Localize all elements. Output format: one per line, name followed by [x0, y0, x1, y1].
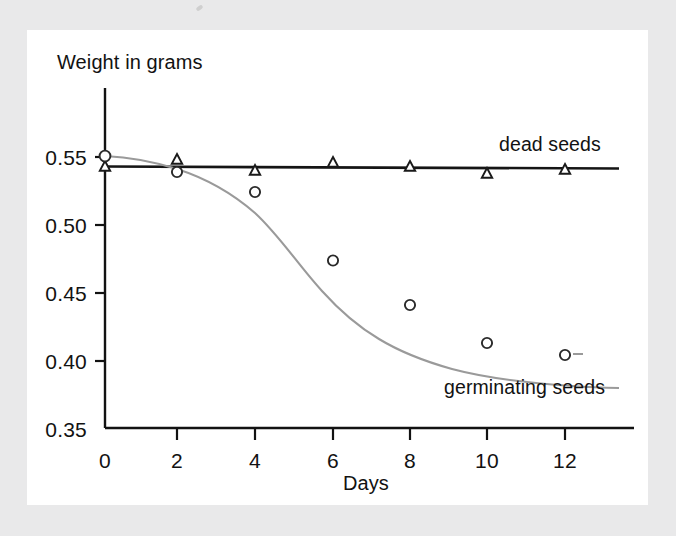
x-axis-title: Days: [343, 473, 389, 493]
germinating-seeds-markers: [100, 151, 571, 361]
scan-speck: [195, 4, 203, 11]
germinating-seeds-curve: [105, 156, 619, 388]
x-tick-label-0: 0: [85, 450, 125, 471]
y-tick-label-0: 0.55: [21, 147, 87, 168]
y-tick-label-4: 0.35: [21, 419, 87, 440]
x-tick-label-4: 8: [390, 450, 430, 471]
germinating-seeds-label: germinating seeds: [444, 378, 605, 398]
dead-seeds-line: [105, 167, 619, 169]
figure-panel: Weight in grams Days dead seeds germinat…: [27, 30, 648, 505]
y-axis-title: Weight in grams: [57, 52, 203, 72]
dead-seeds-label: dead seeds: [499, 135, 601, 155]
x-tick-label-2: 4: [235, 450, 275, 471]
y-tick-label-2: 0.45: [21, 283, 87, 304]
chart-graphics: [27, 30, 648, 505]
chart-plot-area: Weight in grams Days dead seeds germinat…: [27, 30, 648, 505]
y-tick-label-1: 0.50: [21, 215, 87, 236]
x-tick-marks: [177, 428, 565, 440]
y-tick-label-3: 0.40: [21, 351, 87, 372]
x-tick-label-3: 6: [313, 450, 353, 471]
x-tick-label-1: 2: [157, 450, 197, 471]
x-tick-label-6: 12: [545, 450, 585, 471]
figure-page: Weight in grams Days dead seeds germinat…: [0, 0, 676, 536]
x-tick-label-5: 10: [467, 450, 507, 471]
